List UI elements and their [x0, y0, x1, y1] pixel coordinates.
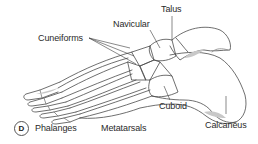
- panel-letter-badge: D: [14, 121, 29, 136]
- label-phalanges: Phalanges: [35, 124, 77, 133]
- leader-navicular: [150, 30, 160, 48]
- leader-cuneiforms-3: [89, 38, 136, 64]
- panel-letter: D: [19, 124, 25, 133]
- metatarsal-5: [80, 90, 150, 114]
- label-calcaneus: Calcaneus: [205, 121, 247, 130]
- label-metatarsals: Metatarsals: [101, 124, 146, 133]
- talus-bone: [170, 27, 231, 60]
- cuboid-bone: [149, 75, 178, 97]
- label-cuboid: Cuboid: [159, 102, 187, 111]
- cuneiform-medial: [140, 60, 160, 80]
- label-talus: Talus: [161, 5, 182, 14]
- calcaneus-bone: [152, 52, 246, 122]
- metatarsal-2: [62, 62, 128, 92]
- foot-bones-diagram: Talus Navicular Cuneiforms Cuboid Calcan…: [0, 0, 258, 144]
- label-cuneiforms: Cuneiforms: [38, 34, 83, 43]
- leader-cuboid: [164, 86, 170, 100]
- label-navicular: Navicular: [113, 20, 150, 29]
- metatarsal-1: [60, 52, 132, 82]
- leader-cuneiforms-2: [89, 38, 134, 56]
- phalanges-3: [32, 102, 68, 112]
